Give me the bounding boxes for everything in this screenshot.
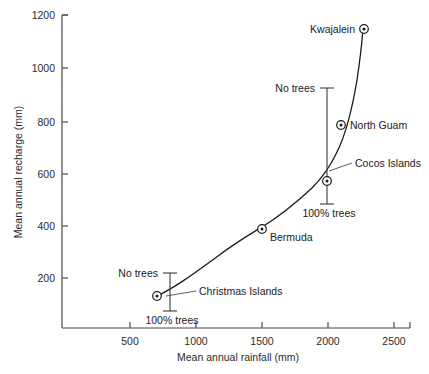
errorbar-lower-label-christmas: 100% trees: [145, 314, 198, 326]
marker-inner-dot: [340, 124, 343, 127]
data-label-kwajalein: Kwajalein: [310, 23, 355, 35]
y-tick-label-800: 800: [37, 116, 55, 128]
x-axis-line: [62, 322, 410, 328]
marker-inner-dot: [326, 180, 329, 183]
x-tick-label-500: 500: [121, 335, 139, 347]
marker-inner-dot: [156, 295, 159, 298]
y-axis-title: Mean annual recharge (mm): [12, 106, 24, 238]
x-tick-label-1500: 1500: [250, 335, 274, 347]
recharge-vs-rainfall-chart: 1200 1000 800 600 400 200 500 1000 1500 …: [0, 0, 429, 374]
axes-group: [62, 15, 410, 328]
error-bar-cocos-islands: No trees 100% trees: [275, 82, 355, 219]
data-label-bermuda: Bermuda: [270, 231, 313, 243]
data-point-christmas-islands[interactable]: [153, 292, 162, 301]
marker-inner-dot: [363, 28, 366, 31]
data-label-cocos-islands: Cocos Islands: [355, 157, 421, 169]
data-label-north-guam: North Guam: [350, 119, 407, 131]
x-axis-title: Mean annual rainfall (mm): [177, 351, 299, 363]
data-point-cocos-islands[interactable]: [323, 177, 332, 186]
data-point-kwajalein[interactable]: [360, 25, 369, 34]
data-point-bermuda[interactable]: [258, 225, 267, 234]
y-tick-label-200: 200: [37, 272, 55, 284]
y-tick-label-400: 400: [37, 220, 55, 232]
leader-line-cocos-islands: [329, 163, 352, 171]
y-tick-label-1000: 1000: [32, 62, 56, 74]
data-label-christmas-islands: Christmas Islands: [199, 285, 282, 297]
data-point-north-guam[interactable]: [337, 121, 346, 130]
errorbar-upper-label-christmas: No trees: [118, 267, 158, 279]
y-axis-line: [62, 15, 68, 328]
y-tick-label-600: 600: [37, 168, 55, 180]
marker-inner-dot: [261, 228, 264, 231]
chart-canvas: 1200 1000 800 600 400 200 500 1000 1500 …: [0, 0, 429, 374]
x-tick-label-2000: 2000: [316, 335, 340, 347]
x-tick-label-2500: 2500: [382, 335, 406, 347]
recharge-curve: [153, 29, 363, 298]
x-tick-label-1000: 1000: [184, 335, 208, 347]
errorbar-lower-label-cocos: 100% trees: [302, 207, 355, 219]
errorbar-upper-label-cocos: No trees: [275, 82, 315, 94]
y-tick-label-1200: 1200: [32, 9, 56, 21]
